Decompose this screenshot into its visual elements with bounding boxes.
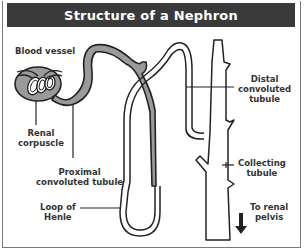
label-loop-of-henle: Loop of Henle <box>40 202 76 222</box>
label-renal-corpuscle: Renal corpuscle <box>18 128 64 148</box>
label-distal-line3: tubule <box>238 94 291 104</box>
loop-of-henle <box>120 43 204 236</box>
collecting-tubule <box>196 40 234 240</box>
label-distal-convoluted-tubule: Distal convoluted tubule <box>238 74 291 104</box>
label-pelvis-line1: To renal <box>250 202 288 212</box>
label-distal-line1: Distal <box>238 74 291 84</box>
label-collecting-line1: Collecting <box>238 158 286 168</box>
label-loop-line1: Loop of <box>40 202 76 212</box>
label-to-renal-pelvis: To renal pelvis <box>250 202 288 222</box>
label-blood-vessel: Blood vessel <box>15 46 75 56</box>
label-renal-line1: Renal <box>18 128 64 138</box>
label-distal-line2: convoluted <box>238 84 291 94</box>
proximal-convoluted-tubule <box>52 45 156 186</box>
label-collecting-tubule: Collecting tubule <box>238 158 286 178</box>
label-proximal-convoluted-tubule: Proximal convoluted tubule <box>36 167 123 187</box>
down-arrow-icon <box>235 213 247 234</box>
label-collecting-line2: tubule <box>238 168 286 178</box>
label-loop-line2: Henle <box>40 212 76 222</box>
label-proximal-line2: convoluted tubule <box>36 177 123 187</box>
label-pelvis-line2: pelvis <box>250 212 288 222</box>
label-proximal-line1: Proximal <box>36 167 123 177</box>
label-renal-line2: corpuscle <box>18 138 64 148</box>
